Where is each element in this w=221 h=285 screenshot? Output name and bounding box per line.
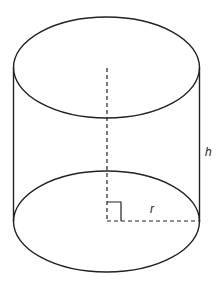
cylinder-diagram (0, 0, 221, 285)
height-label: h (205, 146, 212, 158)
right-angle-marker (107, 202, 121, 221)
radius-label: r (150, 203, 154, 215)
top-face-ellipse (14, 17, 200, 118)
